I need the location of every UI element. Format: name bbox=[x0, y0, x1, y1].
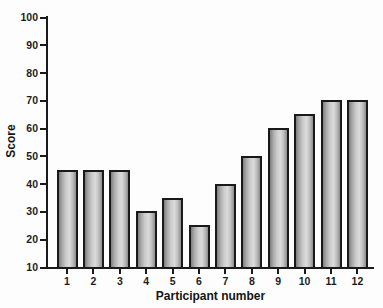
x-tick-label-1: 1 bbox=[57, 275, 77, 287]
x-tick-6 bbox=[198, 269, 200, 274]
x-tick-label-4: 4 bbox=[136, 275, 156, 287]
x-tick-4 bbox=[145, 269, 147, 274]
x-tick-label-5: 5 bbox=[163, 275, 183, 287]
x-tick-5 bbox=[172, 269, 174, 274]
bar-participant-3 bbox=[109, 170, 130, 269]
y-tick-label-60: 60 bbox=[4, 122, 38, 134]
y-tick-label-50: 50 bbox=[4, 150, 38, 162]
x-tick-9 bbox=[277, 269, 279, 274]
x-tick-label-6: 6 bbox=[189, 275, 209, 287]
y-tick-label-20: 20 bbox=[4, 233, 38, 245]
x-axis-title: Participant number bbox=[47, 289, 374, 303]
bar-participant-1 bbox=[57, 170, 78, 269]
x-tick-8 bbox=[251, 269, 253, 274]
bar-participant-10 bbox=[294, 114, 315, 269]
bar-participant-8 bbox=[241, 156, 262, 269]
bar-participant-12 bbox=[347, 100, 368, 269]
y-axis-line bbox=[46, 16, 48, 269]
y-tick-label-30: 30 bbox=[4, 205, 38, 217]
bar-chart-figure: Score Participant number 102030405060708… bbox=[0, 0, 383, 308]
bar-participant-2 bbox=[83, 170, 104, 269]
x-tick-label-10: 10 bbox=[295, 275, 315, 287]
x-tick-3 bbox=[119, 269, 121, 274]
bar-participant-4 bbox=[136, 211, 157, 269]
bar-participant-11 bbox=[321, 100, 342, 269]
x-tick-label-12: 12 bbox=[347, 275, 367, 287]
x-tick-label-7: 7 bbox=[215, 275, 235, 287]
x-tick-label-11: 11 bbox=[321, 275, 341, 287]
x-tick-10 bbox=[304, 269, 306, 274]
bar-participant-5 bbox=[162, 198, 183, 269]
y-tick-label-100: 100 bbox=[4, 11, 38, 23]
y-tick-label-90: 90 bbox=[4, 39, 38, 51]
x-tick-label-3: 3 bbox=[110, 275, 130, 287]
x-axis-line bbox=[46, 267, 374, 269]
x-tick-11 bbox=[330, 269, 332, 274]
bar-participant-6 bbox=[189, 225, 210, 269]
x-tick-2 bbox=[92, 269, 94, 274]
x-tick-label-8: 8 bbox=[242, 275, 262, 287]
x-tick-7 bbox=[224, 269, 226, 274]
x-tick-1 bbox=[66, 269, 68, 274]
x-tick-label-2: 2 bbox=[83, 275, 103, 287]
y-tick-label-80: 80 bbox=[4, 67, 38, 79]
y-tick-label-40: 40 bbox=[4, 178, 38, 190]
bar-participant-9 bbox=[268, 128, 289, 269]
y-tick-label-10: 10 bbox=[4, 261, 38, 273]
bar-participant-7 bbox=[215, 184, 236, 269]
x-tick-12 bbox=[356, 269, 358, 274]
y-tick-label-70: 70 bbox=[4, 94, 38, 106]
x-tick-label-9: 9 bbox=[268, 275, 288, 287]
